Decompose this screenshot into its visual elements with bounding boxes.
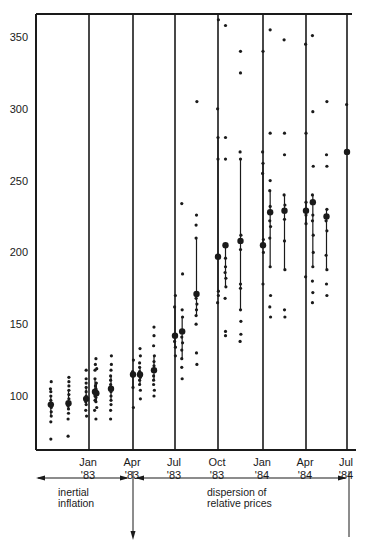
y-tick-label: 350	[10, 31, 28, 43]
price-point	[311, 291, 314, 294]
price-point	[195, 351, 198, 354]
price-point	[268, 236, 271, 239]
price-point	[269, 315, 272, 318]
price-point	[153, 389, 156, 392]
price-point	[174, 346, 177, 349]
mean-point	[260, 242, 266, 248]
price-point	[138, 361, 141, 364]
price-point	[195, 100, 198, 103]
price-point	[94, 400, 97, 403]
price-point	[261, 282, 264, 285]
price-point	[312, 165, 315, 168]
price-point	[311, 301, 314, 304]
price-point	[224, 265, 227, 268]
price-point	[67, 417, 70, 420]
price-point	[109, 369, 112, 372]
price-point	[304, 132, 307, 135]
mean-point	[172, 332, 178, 338]
price-point	[269, 132, 272, 135]
price-point	[311, 213, 314, 216]
price-point	[85, 369, 88, 372]
price-point	[311, 34, 314, 37]
x-tick-month: Jan	[253, 456, 271, 468]
price-point	[85, 377, 88, 380]
price-point	[239, 308, 242, 311]
price-point	[239, 340, 242, 343]
price-point	[325, 100, 328, 103]
price-point	[325, 165, 328, 168]
price-point	[94, 357, 97, 360]
price-point	[94, 363, 97, 366]
price-point	[261, 50, 264, 53]
price-point	[152, 360, 155, 363]
price-point	[94, 396, 97, 399]
price-point	[269, 225, 272, 228]
price-dispersion-chart: 100150200250300350 Jan'83Apr'83Jul'83Oct…	[0, 0, 365, 547]
y-tick-label: 300	[10, 103, 28, 115]
x-tick-month: Jul	[339, 456, 353, 468]
annotation-dispersion-2: relative prices	[207, 497, 272, 509]
data-points	[48, 18, 351, 441]
mean-point	[130, 371, 136, 377]
x-tick-month: Apr	[123, 456, 140, 468]
price-point	[181, 341, 184, 344]
price-point	[132, 359, 135, 362]
mean-point	[151, 367, 157, 373]
price-point	[85, 415, 88, 418]
mean-point	[93, 390, 99, 396]
price-point	[67, 412, 70, 415]
price-point	[283, 239, 286, 242]
price-point	[239, 320, 242, 323]
price-point	[180, 348, 183, 351]
price-point	[131, 386, 134, 389]
price-point	[67, 380, 70, 383]
price-point	[224, 334, 227, 337]
price-point	[224, 297, 227, 300]
price-point	[109, 379, 112, 382]
price-point	[93, 377, 96, 380]
price-point	[85, 403, 88, 406]
price-point	[152, 334, 155, 337]
x-tick-month: Jan	[79, 456, 97, 468]
price-point	[139, 354, 142, 357]
price-point	[262, 238, 265, 241]
price-point	[50, 415, 53, 418]
price-point	[138, 383, 141, 386]
price-point	[262, 251, 265, 254]
price-point	[261, 150, 264, 153]
price-point	[312, 234, 315, 237]
mean-point	[108, 386, 114, 392]
price-point	[50, 380, 53, 383]
price-point	[269, 205, 272, 208]
price-point	[195, 308, 198, 311]
price-point	[180, 366, 183, 369]
y-tick-label: 200	[10, 246, 28, 258]
price-point	[138, 379, 141, 382]
price-point	[224, 136, 227, 139]
price-point	[239, 248, 242, 251]
price-point	[153, 354, 156, 357]
price-point	[325, 282, 328, 285]
price-point	[345, 103, 348, 106]
price-point	[49, 394, 52, 397]
mean-point	[83, 396, 89, 402]
x-tick-year: '83	[81, 469, 95, 481]
price-point	[109, 399, 112, 402]
price-point	[195, 323, 198, 326]
mean-point	[137, 371, 143, 377]
price-point	[84, 409, 87, 412]
mean-point	[344, 149, 350, 155]
price-point	[67, 393, 70, 396]
price-point	[239, 150, 242, 153]
price-point	[94, 387, 97, 390]
arrowhead-down-icon	[131, 531, 136, 540]
price-point	[216, 136, 219, 139]
x-tick-month: Oct	[208, 456, 225, 468]
price-point	[261, 172, 264, 175]
price-point	[325, 208, 328, 211]
price-point	[174, 354, 177, 357]
price-point	[283, 308, 286, 311]
price-point	[174, 294, 177, 297]
mean-point	[222, 242, 228, 248]
price-point	[224, 277, 227, 280]
